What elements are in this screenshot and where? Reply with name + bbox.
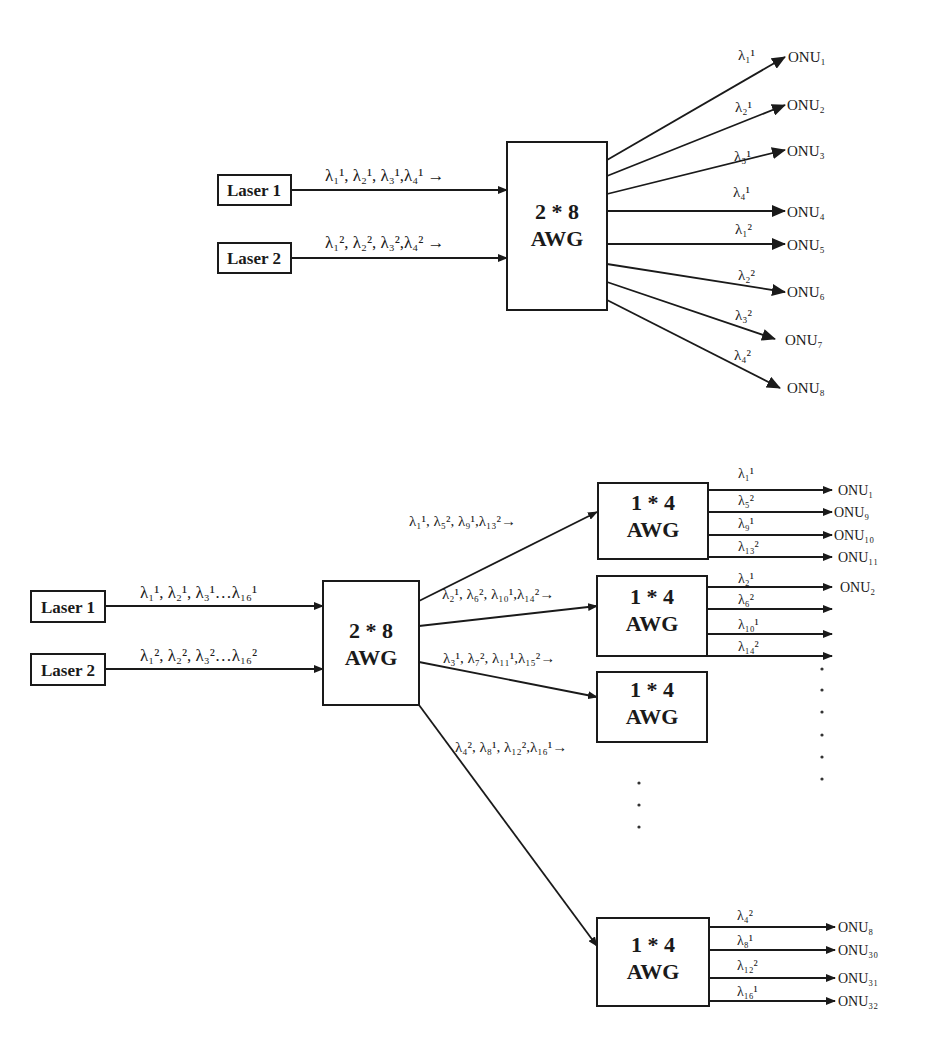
sub-awg-1-onu-4: ONU₁₁ <box>838 550 878 565</box>
sub-awg-4-out-2-wavelength: λ₈¹ <box>737 933 753 948</box>
branch-3-wavelengths: λ₃¹, λ₇², λ₁₁¹,λ₁₅²→ <box>443 650 555 666</box>
top-diagram: Laser 1 λ₁¹, λ₂¹, λ₃¹,λ₄¹ → Laser 2 λ₁²,… <box>218 47 826 396</box>
sub-awg-4: 1 * 4 AWG λ₄² λ₈¹ λ₁₂² λ₁₆¹ ONU₈ ONU₃₀ O… <box>597 908 878 1009</box>
branch-3-fiber <box>419 662 597 697</box>
top-laser-1: Laser 1 λ₁¹, λ₂¹, λ₃¹,λ₄¹ → <box>218 166 507 205</box>
bottom-diagram: Laser 1 λ₁¹, λ₂¹, λ₃¹…λ₁₆¹ Laser 2 λ₁², … <box>31 466 878 1009</box>
sub-awg-4-onu-4: ONU₃₂ <box>838 994 878 1009</box>
sub-awg-2-out-1-wavelength: λ₂¹ <box>738 571 754 586</box>
top-out-5-wavelength: λ₁² <box>735 221 753 237</box>
sub-awg-2-line2: AWG <box>626 611 679 636</box>
sub-awg-1: 1 * 4 AWG λ₁¹ λ₅² λ₉¹ λ₁₃² ONU₁ ONU₉ ONU… <box>598 466 878 565</box>
top-awg-2x8: 2 * 8 AWG <box>507 142 607 310</box>
top-out-3-wavelength: λ₃¹ <box>734 148 751 164</box>
sub-awg-4-onu-1: ONU₈ <box>838 920 873 935</box>
sub-awg-2-out-3-wavelength: λ₁₀¹ <box>738 617 759 632</box>
sub-awg-3-line1: 1 * 4 <box>630 677 674 702</box>
sub-awg-1-out-2-wavelength: λ₅² <box>738 493 754 508</box>
top-out-7-wavelength: λ₃² <box>735 307 753 323</box>
laser-1-label: Laser 1 <box>41 598 95 617</box>
top-outputs: λ₁¹ λ₂¹ λ₃¹ λ₄¹ λ₁² λ₂² λ₃² λ₄² ONU₁ ONU… <box>607 47 826 396</box>
top-out-2-wavelength: λ₂¹ <box>735 99 752 115</box>
awg-2x8-line2: AWG <box>531 226 584 251</box>
top-laser-2: Laser 2 λ₁², λ₂², λ₃²,λ₄² → <box>218 233 507 273</box>
sub-awg-2-onu-1: ONU₂ <box>840 580 875 595</box>
sub-awg-4-out-3-wavelength: λ₁₂² <box>737 958 758 973</box>
top-onu-7: ONU₇ <box>785 332 823 348</box>
branches: λ₁¹, λ₅², λ₉¹,λ₁₃²→ λ₂¹, λ₆², λ₁₀¹,λ₁₄²→… <box>409 512 597 946</box>
branch-1-wavelengths: λ₁¹, λ₅², λ₉¹,λ₁₃²→ <box>409 513 516 529</box>
sub-awg-1-onu-3: ONU₁₀ <box>834 528 874 543</box>
awg-2x8-line1: 2 * 8 <box>535 199 579 224</box>
sub-awg-2-line1: 1 * 4 <box>630 584 674 609</box>
sub-awg-1-out-3-wavelength: λ₉¹ <box>738 516 754 531</box>
top-onu-5: ONU₅ <box>787 237 825 253</box>
bottom-awg-2x8: 2 * 8 AWG <box>323 581 419 705</box>
sub-awg-4-onu-3: ONU₃₁ <box>838 971 878 986</box>
top-out-4-wavelength: λ₄¹ <box>733 184 750 200</box>
laser-1-label: Laser 1 <box>227 181 281 200</box>
top-onu-3: ONU₃ <box>787 143 825 159</box>
ellipsis-right <box>820 667 823 780</box>
branch-4-wavelengths: λ₄², λ₈¹, λ₁₂²,λ₁₆¹→ <box>455 739 567 755</box>
sub-awg-1-out-1-wavelength: λ₁¹ <box>738 466 754 481</box>
sub-awg-2-out-4-wavelength: λ₁₄² <box>738 639 759 654</box>
awg-pon-diagram: Laser 1 λ₁¹, λ₂¹, λ₃¹,λ₄¹ → Laser 2 λ₁²,… <box>0 0 928 1037</box>
ellipsis-middle <box>637 781 640 828</box>
laser-1-wavelengths: λ₁¹, λ₂¹, λ₃¹…λ₁₆¹ <box>140 583 257 602</box>
top-out-8-wavelength: λ₄² <box>734 347 752 363</box>
sub-awg-4-line2: AWG <box>627 959 680 984</box>
sub-awg-3-line2: AWG <box>626 704 679 729</box>
sub-awg-1-line1: 1 * 4 <box>631 490 675 515</box>
bottom-laser-1: Laser 1 λ₁¹, λ₂¹, λ₃¹…λ₁₆¹ <box>31 583 323 622</box>
sub-awg-2: 1 * 4 AWG λ₂¹ λ₆² λ₁₀¹ λ₁₄² ONU₂ <box>597 571 875 656</box>
top-out-6-wavelength: λ₂² <box>738 267 756 283</box>
sub-awg-1-onu-1: ONU₁ <box>838 483 873 498</box>
sub-awg-4-line1: 1 * 4 <box>631 932 675 957</box>
laser-2-wavelengths: λ₁², λ₂², λ₃²,λ₄² → <box>325 233 445 252</box>
top-onu-8: ONU₈ <box>787 380 825 396</box>
sub-awg-3: 1 * 4 AWG <box>597 672 707 742</box>
sub-awg-4-onu-2: ONU₃₀ <box>838 943 878 958</box>
top-onu-4: ONU₄ <box>787 204 825 220</box>
top-out-1-wavelength: λ₁¹ <box>738 47 755 63</box>
sub-awg-2-out-2-wavelength: λ₆² <box>738 592 754 607</box>
laser-1-wavelengths: λ₁¹, λ₂¹, λ₃¹,λ₄¹ → <box>325 166 445 185</box>
top-onu-6: ONU₆ <box>787 284 825 300</box>
awg-2x8-line2: AWG <box>345 645 398 670</box>
bottom-laser-2: Laser 2 λ₁², λ₂², λ₃²…λ₁₆² <box>31 646 323 685</box>
sub-awg-1-line2: AWG <box>627 517 680 542</box>
sub-awg-4-out-1-wavelength: λ₄² <box>737 908 753 923</box>
awg-2x8-box <box>323 581 419 705</box>
sub-awg-1-out-4-wavelength: λ₁₃² <box>738 539 759 554</box>
top-onu-2: ONU₂ <box>787 97 825 113</box>
laser-2-wavelengths: λ₁², λ₂², λ₃²…λ₁₆² <box>140 646 257 665</box>
top-onu-1: ONU₁ <box>788 49 826 65</box>
branch-2-wavelengths: λ₂¹, λ₆², λ₁₀¹,λ₁₄²→ <box>442 586 554 602</box>
awg-2x8-line1: 2 * 8 <box>349 618 393 643</box>
sub-awg-1-onu-2: ONU₉ <box>834 505 869 520</box>
sub-awg-4-out-4-wavelength: λ₁₆¹ <box>737 984 758 999</box>
laser-2-label: Laser 2 <box>41 661 95 680</box>
branch-2-fiber <box>419 606 597 626</box>
laser-2-label: Laser 2 <box>227 249 281 268</box>
